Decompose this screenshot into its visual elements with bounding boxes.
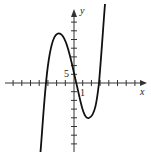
cubic-curve bbox=[41, 4, 106, 152]
x-axis-label: x bbox=[140, 87, 144, 97]
y-tick-label: 5 bbox=[64, 69, 69, 79]
x-tick-label: 1 bbox=[80, 88, 85, 98]
y-axis-label: y bbox=[80, 6, 84, 16]
cubic-graph bbox=[0, 0, 151, 160]
y-axis-arrow-icon bbox=[71, 9, 77, 17]
